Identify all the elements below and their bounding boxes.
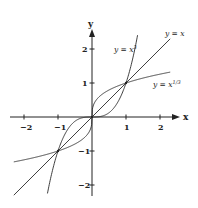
y-tick-label: 2 bbox=[82, 44, 88, 54]
label-y-equals-cube-root-x: y = x1/3 bbox=[152, 79, 181, 89]
y-tick-label: 1 bbox=[82, 78, 88, 88]
x-axis-arrow-icon bbox=[172, 114, 180, 120]
label-y-equals-x-cubed: y = x3 bbox=[113, 44, 137, 54]
label-y-equals-x: y = x bbox=[164, 29, 185, 38]
y-axis-label: y bbox=[87, 19, 94, 29]
intersection-point bbox=[91, 116, 93, 118]
y-axis-arrow-icon bbox=[89, 29, 95, 37]
y-tick-label: −1 bbox=[78, 146, 90, 156]
function-graph: x y −2 −1 1 2 2 1 −1 −2 y = x3 y = x y =… bbox=[0, 0, 198, 208]
x-axis-label: x bbox=[183, 112, 189, 122]
x-tick-label: −2 bbox=[20, 122, 32, 132]
x-tick-label: −1 bbox=[54, 122, 66, 132]
x-tick-label: 1 bbox=[124, 122, 130, 132]
intersection-point bbox=[57, 150, 59, 152]
x-tick-label: 2 bbox=[158, 122, 164, 132]
y-tick-label: −2 bbox=[78, 180, 90, 190]
intersection-point bbox=[125, 82, 127, 84]
